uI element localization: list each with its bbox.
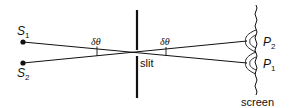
source-s1-label: S1 [17, 24, 30, 40]
screen-label: screen [241, 96, 274, 108]
angle-label-right: δθ [160, 36, 170, 47]
angle-label-left: δθ [91, 36, 101, 47]
slit-label: slit [140, 57, 153, 69]
screen-line [255, 5, 257, 95]
source-s1-dot [20, 39, 25, 44]
point-p1-label: P1 [263, 57, 276, 73]
source-s2-label: S2 [17, 66, 30, 82]
intensity-pattern-p1 [245, 52, 256, 74]
diffraction-diagram: S1 S2 slit δθ δθ P2 P1 screen [0, 0, 289, 108]
source-s2-dot [20, 60, 25, 65]
intensity-pattern-p2 [245, 30, 256, 52]
point-p2-label: P2 [263, 35, 276, 51]
